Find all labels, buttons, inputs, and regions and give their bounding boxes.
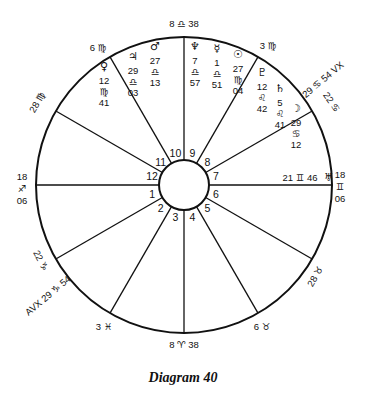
planet-sign-icon: ♋ xyxy=(292,128,301,139)
mars-icon: ♂ xyxy=(150,40,160,53)
saturn-icon: ♄ xyxy=(275,82,285,95)
diagram-caption: Diagram 40 xyxy=(0,370,366,386)
planet-degree: 12 xyxy=(99,75,110,86)
planet-sign-icon: ♌ xyxy=(276,108,285,119)
cusp-label: 6 ♉ xyxy=(254,321,270,332)
cusp-label: ♐ xyxy=(18,183,27,194)
cusp-label: ♊ xyxy=(336,181,345,192)
cusp-label: 3 ♓ xyxy=(96,321,112,332)
venus-icon: ♀ xyxy=(100,60,108,73)
planet-position: 21 ♊ 46 xyxy=(283,172,318,183)
planet-positions: ♀12♍41♃29♎03♂27♎13♆7♎57☿1♎51☉27♍04♇12♌42… xyxy=(99,40,334,184)
planet-degree: 27 xyxy=(233,63,244,74)
house-number-4: 4 xyxy=(190,211,196,223)
horoscope-wheel: 123456789101112 18♐0628 ♍6 ♍8 ♎ 383 ♍29 … xyxy=(0,0,366,396)
planet-saturn: ♄5♌41 xyxy=(275,82,286,130)
cusp-label: 3 ♍ xyxy=(260,40,276,51)
planet-degree: 12 xyxy=(257,81,268,92)
cusp-label: 18 xyxy=(335,169,346,180)
cusp-label: 28 ♍ xyxy=(27,90,47,114)
planet-minute: 42 xyxy=(257,103,268,114)
house-number-9: 9 xyxy=(190,147,196,159)
planet-minute: 03 xyxy=(128,87,139,98)
cusp-label: 29 ♋ 54 VX xyxy=(300,59,346,100)
planet-minute: 57 xyxy=(190,77,201,88)
inner-circle xyxy=(159,160,209,210)
cusp-label: 8 ♈ 38 xyxy=(169,339,199,350)
cusp-label: 18 xyxy=(17,171,28,182)
cusp-label: 06 xyxy=(335,193,346,204)
uranus-icon: ♅ xyxy=(324,171,334,184)
house-number-10: 10 xyxy=(170,147,182,159)
jupiter-icon: ♃ xyxy=(128,50,138,63)
cusp-label: 06 xyxy=(17,195,28,206)
planet-sun: ☉27♍04 xyxy=(233,48,244,96)
neptune-icon: ♆ xyxy=(190,40,200,53)
planet-degree: 7 xyxy=(192,55,197,66)
planet-sign-icon: ♎ xyxy=(191,66,200,77)
planet-venus: ♀12♍41 xyxy=(99,60,110,108)
planet-degree: 27 xyxy=(150,55,161,66)
house-number-12: 12 xyxy=(146,170,158,182)
house-number-8: 8 xyxy=(204,156,210,168)
wheel-lines xyxy=(36,37,332,333)
planet-sign-icon: ♍ xyxy=(234,74,243,85)
planet-degree: 29 xyxy=(128,65,139,76)
house-number-7: 7 xyxy=(213,170,219,182)
planet-mars: ♂27♎13 xyxy=(150,40,161,88)
pluto-icon: ♇ xyxy=(257,66,267,79)
planet-uranus: 21 ♊ 46♅ xyxy=(283,171,334,184)
mercury-icon: ☿ xyxy=(214,42,221,55)
planet-sign-icon: ♍ xyxy=(100,86,109,97)
cusp-label: 8 ♎ 38 xyxy=(169,18,199,29)
planet-minute: 12 xyxy=(291,139,302,150)
house-number-11: 11 xyxy=(155,156,166,168)
planet-mercury: ☿1♎51 xyxy=(212,42,223,90)
cusp-label: 22 ♋ xyxy=(321,90,342,114)
planet-minute: 04 xyxy=(233,85,244,96)
planet-pluto: ♇12♌42 xyxy=(257,66,268,114)
sun-icon: ☉ xyxy=(233,48,243,61)
planet-jupiter: ♃29♎03 xyxy=(128,50,139,98)
house-number-3: 3 xyxy=(173,211,179,223)
house-number-1: 1 xyxy=(149,188,155,200)
planet-sign-icon: ♌ xyxy=(258,92,267,103)
house-number-5: 5 xyxy=(204,202,210,214)
moon-icon: ☽ xyxy=(291,102,301,115)
planet-degree: 29 xyxy=(291,117,302,128)
planet-sign-icon: ♎ xyxy=(151,66,160,77)
cusp-label: AVX 29 ♑ 54 xyxy=(23,273,73,317)
cusp-label: 6 ♍ xyxy=(90,42,106,53)
planet-minute: 13 xyxy=(150,77,161,88)
house-number-6: 6 xyxy=(213,188,219,200)
planet-minute: 41 xyxy=(99,97,110,108)
planet-sign-icon: ♎ xyxy=(129,76,138,87)
cusp-label: 22 ♑ xyxy=(31,248,51,272)
planet-minute: 41 xyxy=(275,119,286,130)
planet-degree: 1 xyxy=(214,57,219,68)
planet-minute: 51 xyxy=(212,79,223,90)
planet-neptune: ♆7♎57 xyxy=(190,40,201,88)
planet-sign-icon: ♎ xyxy=(213,68,222,79)
planet-degree: 5 xyxy=(277,97,282,108)
house-number-2: 2 xyxy=(158,202,164,214)
planet-moon: ☽29♋12 xyxy=(291,102,302,150)
